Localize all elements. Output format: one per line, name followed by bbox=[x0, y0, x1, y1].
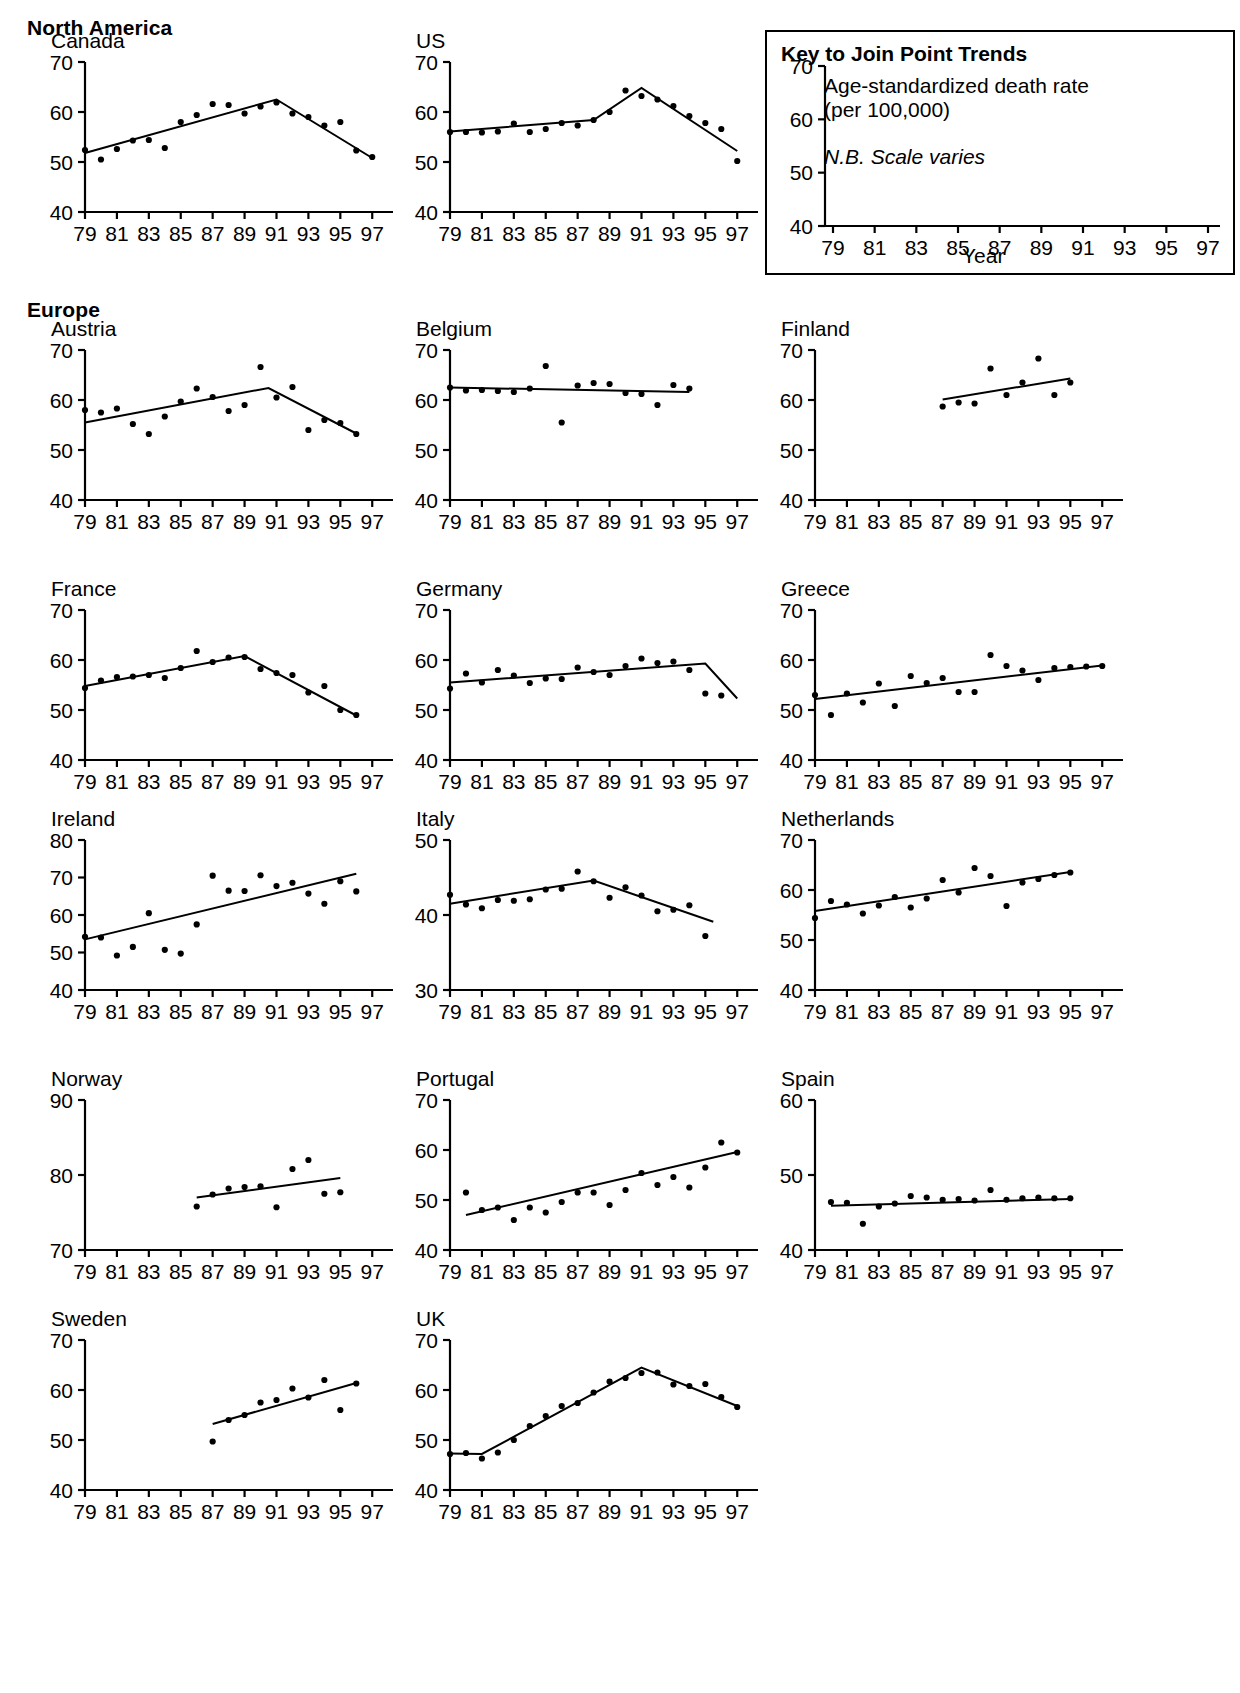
svg-text:79: 79 bbox=[73, 770, 96, 793]
data-points bbox=[82, 364, 359, 437]
panel-plot: 4050607079818385878991939597 bbox=[392, 54, 772, 254]
svg-text:60: 60 bbox=[790, 108, 813, 131]
data-point bbox=[670, 103, 676, 109]
svg-text:81: 81 bbox=[470, 1260, 493, 1283]
data-point bbox=[178, 951, 184, 957]
data-point bbox=[591, 380, 597, 386]
data-point bbox=[718, 126, 724, 132]
svg-text:30: 30 bbox=[415, 979, 438, 1002]
data-point bbox=[114, 952, 120, 958]
data-point bbox=[257, 666, 263, 672]
data-points bbox=[812, 865, 1074, 921]
panel-finland: Finland4050607079818385878991939597 bbox=[757, 318, 1137, 538]
svg-text:87: 87 bbox=[201, 1260, 224, 1283]
data-point bbox=[559, 419, 565, 425]
data-point bbox=[1003, 903, 1009, 909]
data-point bbox=[353, 431, 359, 437]
data-point bbox=[1051, 1195, 1057, 1201]
svg-text:83: 83 bbox=[502, 510, 525, 533]
data-point bbox=[940, 1197, 946, 1203]
data-point bbox=[114, 674, 120, 680]
data-point bbox=[622, 390, 628, 396]
svg-text:83: 83 bbox=[137, 1260, 160, 1283]
data-point bbox=[591, 1389, 597, 1395]
panel-us: US4050607079818385878991939597 bbox=[392, 30, 772, 250]
data-point bbox=[734, 1404, 740, 1410]
data-point bbox=[479, 905, 485, 911]
svg-text:89: 89 bbox=[233, 770, 256, 793]
data-point bbox=[241, 888, 247, 894]
panel-belgium: Belgium4050607079818385878991939597 bbox=[392, 318, 772, 538]
svg-text:60: 60 bbox=[50, 389, 73, 412]
svg-text:95: 95 bbox=[694, 1260, 717, 1283]
joinpoint-trend-line bbox=[466, 1152, 737, 1215]
data-point bbox=[98, 156, 104, 162]
data-point bbox=[162, 145, 168, 151]
svg-text:85: 85 bbox=[899, 770, 922, 793]
data-point bbox=[987, 652, 993, 658]
panel-title: Italy bbox=[416, 808, 455, 829]
svg-text:83: 83 bbox=[502, 1500, 525, 1523]
data-point bbox=[971, 1197, 977, 1203]
data-point bbox=[702, 120, 708, 126]
data-point bbox=[591, 878, 597, 884]
data-point bbox=[289, 110, 295, 116]
data-point bbox=[146, 137, 152, 143]
svg-text:60: 60 bbox=[50, 649, 73, 672]
data-point bbox=[654, 1369, 660, 1375]
data-point bbox=[114, 146, 120, 152]
data-point bbox=[114, 405, 120, 411]
svg-text:81: 81 bbox=[470, 510, 493, 533]
data-point bbox=[606, 1378, 612, 1384]
svg-text:91: 91 bbox=[265, 510, 288, 533]
data-points bbox=[447, 1369, 740, 1461]
data-point bbox=[337, 1189, 343, 1195]
panel-title: Spain bbox=[781, 1068, 835, 1089]
svg-text:97: 97 bbox=[1091, 770, 1114, 793]
data-point bbox=[559, 1403, 565, 1409]
data-point bbox=[321, 122, 327, 128]
data-point bbox=[321, 1191, 327, 1197]
svg-text:81: 81 bbox=[105, 1260, 128, 1283]
svg-text:93: 93 bbox=[662, 770, 685, 793]
svg-text:89: 89 bbox=[963, 1000, 986, 1023]
svg-text:60: 60 bbox=[780, 649, 803, 672]
svg-text:93: 93 bbox=[297, 1000, 320, 1023]
svg-text:89: 89 bbox=[598, 1500, 621, 1523]
svg-text:85: 85 bbox=[169, 1500, 192, 1523]
panel-germany: Germany4050607079818385878991939597 bbox=[392, 578, 772, 798]
data-point bbox=[337, 119, 343, 125]
data-point bbox=[622, 884, 628, 890]
data-point bbox=[241, 110, 247, 116]
svg-text:95: 95 bbox=[694, 222, 717, 245]
svg-text:79: 79 bbox=[73, 1000, 96, 1023]
data-point bbox=[130, 673, 136, 679]
svg-text:40: 40 bbox=[780, 489, 803, 512]
svg-text:89: 89 bbox=[963, 770, 986, 793]
svg-text:70: 70 bbox=[415, 342, 438, 362]
data-point bbox=[1019, 379, 1025, 385]
data-point bbox=[844, 690, 850, 696]
data-point bbox=[305, 891, 311, 897]
data-point bbox=[162, 947, 168, 953]
joinpoint-trend-line bbox=[85, 388, 356, 434]
data-point bbox=[670, 907, 676, 913]
svg-text:50: 50 bbox=[50, 439, 73, 462]
data-point bbox=[527, 1204, 533, 1210]
svg-text:93: 93 bbox=[297, 1500, 320, 1523]
data-point bbox=[1003, 663, 1009, 669]
data-points bbox=[82, 872, 359, 958]
panel-plot: 4050607079818385878991939597 bbox=[757, 602, 1137, 802]
data-point bbox=[670, 382, 676, 388]
svg-text:70: 70 bbox=[415, 54, 438, 74]
data-point bbox=[543, 363, 549, 369]
svg-text:85: 85 bbox=[534, 222, 557, 245]
svg-text:83: 83 bbox=[867, 1000, 890, 1023]
svg-text:93: 93 bbox=[1113, 236, 1136, 259]
data-point bbox=[638, 391, 644, 397]
data-point bbox=[447, 685, 453, 691]
data-point bbox=[844, 1200, 850, 1206]
svg-text:95: 95 bbox=[1059, 510, 1082, 533]
svg-text:87: 87 bbox=[566, 222, 589, 245]
panel-italy: Italy30405079818385878991939597 bbox=[392, 808, 772, 1028]
